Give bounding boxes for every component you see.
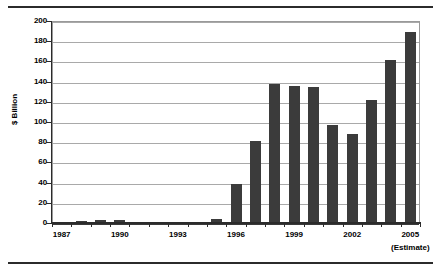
y-axis-tick-label: 20 [7, 198, 47, 207]
y-axis-tick-label: 80 [7, 137, 47, 146]
y-axis-tick-label: 40 [7, 178, 47, 187]
x-axis-tick-mark [149, 223, 150, 227]
bar [289, 86, 300, 223]
bar [385, 60, 396, 223]
y-axis-tick-label: 100 [7, 117, 47, 126]
x-axis-tick-mark [420, 223, 421, 227]
bar [269, 84, 280, 223]
x-axis-tick-mark [226, 223, 227, 227]
x-axis-tick-mark [207, 223, 208, 227]
top-rule [8, 6, 433, 8]
bar [366, 100, 377, 223]
x-axis-tick-mark [52, 223, 53, 227]
y-axis-tick-label: 120 [7, 97, 47, 106]
bar [405, 32, 416, 223]
x-axis-tick-mark [304, 223, 305, 227]
x-axis-tick-label: 1996 [214, 230, 258, 239]
x-axis-tick-mark [265, 223, 266, 227]
bottom-rule [8, 262, 433, 264]
bar [347, 134, 358, 223]
y-axis-tick-label: 60 [7, 157, 47, 166]
x-axis-tick-label: 1987 [40, 230, 84, 239]
x-axis-tick-mark [246, 223, 247, 227]
bar [231, 184, 242, 223]
x-axis-tick-label: 2005 [388, 230, 432, 239]
y-axis-tick-label: 180 [7, 36, 47, 45]
x-axis-tick-label: 2002 [330, 230, 374, 239]
x-axis-tick-mark [323, 223, 324, 227]
y-axis-tick-label: 160 [7, 56, 47, 65]
x-axis-tick-label: 1999 [272, 230, 316, 239]
x-axis-tick-mark [110, 223, 111, 227]
y-axis-tick-label: 140 [7, 77, 47, 86]
bar [308, 87, 319, 223]
estimate-note: (Estimate) [378, 243, 441, 252]
y-axis-title: $ Billion [10, 80, 19, 140]
x-axis-tick-mark [188, 223, 189, 227]
x-axis-tick-mark [71, 223, 72, 227]
bar [250, 141, 261, 223]
x-axis-tick-mark [168, 223, 169, 227]
x-axis-spine [51, 222, 421, 224]
x-axis-tick-label: 1990 [98, 230, 142, 239]
x-axis-tick-mark [343, 223, 344, 227]
y-axis-tick-label: 0 [7, 218, 47, 227]
x-axis-tick-mark [284, 223, 285, 227]
x-axis-tick-mark [381, 223, 382, 227]
bar-series [52, 21, 420, 223]
gridline [53, 224, 419, 225]
chart-figure: $ Billion 020406080100120140160180200 19… [0, 0, 441, 272]
x-axis-tick-mark [362, 223, 363, 227]
y-axis-tick-label: 200 [7, 16, 47, 25]
x-axis-tick-mark [401, 223, 402, 227]
x-axis-tick-mark [91, 223, 92, 227]
x-axis-tick-label: 1993 [156, 230, 200, 239]
x-axis-tick-mark [129, 223, 130, 227]
bar [327, 125, 338, 223]
